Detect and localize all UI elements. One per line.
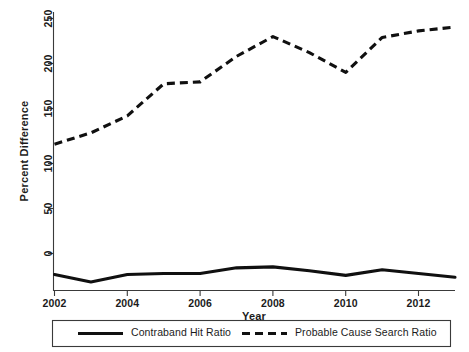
y-tick-label-50: 50 xyxy=(42,203,54,215)
x-tick-label-2002: 2002 xyxy=(43,297,67,309)
x-tick-label-2006: 2006 xyxy=(188,297,212,309)
y-tick-label-250: 250 xyxy=(42,10,54,28)
y-tick-label-0: 0 xyxy=(42,250,54,256)
line-chart-figure: 250 200 150 100 50 0 Percent Difference … xyxy=(0,0,469,352)
y-tick-label-150: 150 xyxy=(42,100,54,118)
x-tick-label-2008: 2008 xyxy=(261,297,285,309)
legend-label-contraband-hit-ratio: Contraband Hit Ratio xyxy=(131,326,231,338)
x-tick-label-2004: 2004 xyxy=(115,297,139,309)
figure-background xyxy=(0,0,469,352)
x-tick-label-2012: 2012 xyxy=(407,297,431,309)
legend-label-probable-cause-search-ratio: Probable Cause Search Ratio xyxy=(295,326,437,338)
x-tick-label-2010: 2010 xyxy=(334,297,358,309)
y-tick-label-100: 100 xyxy=(42,155,54,173)
legend: Contraband Hit Ratio Probable Cause Sear… xyxy=(53,321,451,347)
y-tick-label-200: 200 xyxy=(42,55,54,73)
y-axis-title: Percent Difference xyxy=(18,101,30,202)
